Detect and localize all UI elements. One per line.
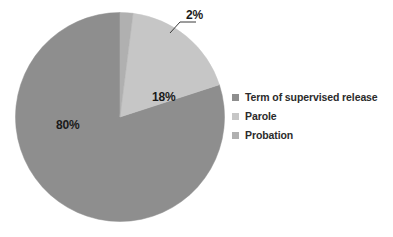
pie-chart-figure: 80% 18% 2% Term of supervised release Pa… — [0, 0, 393, 237]
legend-item-label: Probation — [245, 130, 293, 141]
slice-value-label-parole: 18% — [152, 91, 175, 103]
legend-swatch-icon — [232, 94, 239, 101]
chart-legend: Term of supervised release Parole Probat… — [232, 88, 392, 145]
legend-item-parole[interactable]: Parole — [232, 107, 392, 126]
slice-value-label-probation: 2% — [186, 9, 203, 21]
slice-value-label-term-of-supervised-release: 80% — [56, 119, 79, 131]
legend-swatch-icon — [232, 113, 239, 120]
legend-item-term-of-supervised-release[interactable]: Term of supervised release — [232, 88, 392, 107]
legend-item-label: Parole — [245, 111, 277, 122]
legend-swatch-icon — [232, 132, 239, 139]
legend-item-label: Term of supervised release — [245, 92, 378, 103]
legend-item-probation[interactable]: Probation — [232, 126, 392, 145]
